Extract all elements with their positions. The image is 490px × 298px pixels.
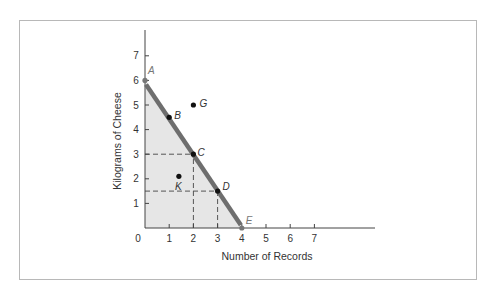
point-e-marker [239, 225, 244, 230]
point-c-label: C [197, 147, 205, 158]
y-axis-title: Kilograms of Cheese [111, 92, 123, 190]
point-e-label: E [246, 215, 253, 226]
x-tick-label: 6 [287, 233, 293, 244]
point-g-marker [191, 102, 196, 107]
y-tick-label: 7 [133, 50, 139, 61]
point-d-label: D [223, 181, 230, 192]
point-d-marker [215, 189, 220, 194]
x-tick-label: 2 [191, 233, 197, 244]
x-tick-label: 3 [215, 233, 221, 244]
x-tick-label: 7 [312, 233, 318, 244]
point-b-marker [167, 115, 172, 120]
point-a-label: A [147, 65, 155, 76]
x-tick-label: 5 [263, 233, 269, 244]
x-tick-label: 0 [135, 233, 141, 244]
y-tick-label: 1 [133, 198, 139, 209]
x-tick-label: 4 [239, 233, 245, 244]
point-g-label: G [199, 98, 207, 109]
y-tick-label: 6 [133, 75, 139, 86]
y-tick-label: 2 [133, 173, 139, 184]
point-b-label: B [174, 110, 181, 121]
point-a-marker [142, 78, 147, 83]
y-tick-label: 4 [133, 124, 139, 135]
ppf-chart: 012345671234567 ABCDEGK Number of Record… [0, 0, 490, 298]
point-c-marker [191, 152, 196, 157]
x-axis-title: Number of Records [221, 250, 312, 262]
x-tick-label: 1 [166, 233, 172, 244]
point-k-marker [176, 174, 181, 179]
y-tick-label: 5 [133, 100, 139, 111]
y-tick-label: 3 [133, 149, 139, 160]
